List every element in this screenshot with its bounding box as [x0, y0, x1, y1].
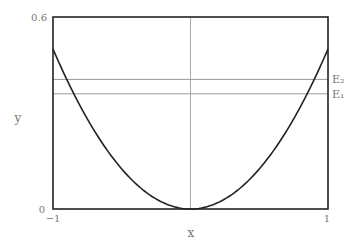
y-tick-bottom: 0 [39, 204, 45, 215]
x-axis-label: x [188, 226, 195, 240]
x-tick-left: −1 [46, 213, 61, 224]
hline-label-e1: E₁ [332, 88, 344, 101]
x-tick-right: 1 [324, 213, 330, 224]
chart: 0.6 0 −1 1 x y E₂ E₁ [0, 0, 357, 245]
y-axis-label: y [14, 111, 22, 125]
y-tick-top: 0.6 [31, 12, 47, 23]
hline-label-e2: E₂ [332, 73, 344, 86]
